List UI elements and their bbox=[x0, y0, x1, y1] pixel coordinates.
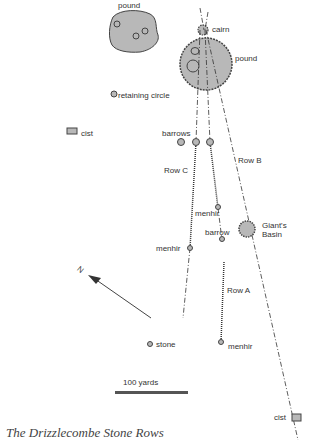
label-giants-basin-1: Giant's bbox=[262, 222, 287, 230]
label-pound-nw: pound bbox=[118, 2, 140, 10]
cist-w bbox=[67, 128, 77, 134]
menhir-c bbox=[188, 246, 193, 251]
label-cist-se: cist bbox=[274, 414, 286, 422]
label-giants-basin-2: Basin bbox=[262, 231, 282, 239]
barrows bbox=[178, 139, 214, 146]
label-scale: 100 yards bbox=[123, 379, 158, 387]
label-row-a: Row A bbox=[227, 287, 250, 295]
label-stone: stone bbox=[156, 341, 176, 349]
label-menhir-a: menhir bbox=[228, 343, 252, 351]
label-pound-main: pound bbox=[235, 55, 257, 63]
stone bbox=[148, 342, 153, 347]
label-menhir-b: menhir bbox=[195, 210, 219, 218]
figure-caption: The Drizzlecombe Stone Rows bbox=[6, 425, 164, 441]
cist-se bbox=[292, 414, 301, 421]
pound-nw bbox=[109, 11, 158, 53]
label-row-b: Row B bbox=[238, 157, 262, 165]
label-barrows: barrows bbox=[162, 130, 190, 138]
label-cist-w: cist bbox=[81, 130, 93, 138]
label-retaining-circle: retaining circle bbox=[118, 92, 170, 100]
retaining-circle bbox=[111, 91, 117, 97]
barrow bbox=[220, 237, 225, 242]
north-arrow-icon bbox=[88, 275, 151, 318]
giants-basin bbox=[239, 221, 255, 237]
label-row-c: Row C bbox=[164, 167, 188, 175]
pound-main bbox=[180, 38, 232, 90]
label-barrow: barrow bbox=[205, 229, 229, 237]
label-cairn: cairn bbox=[212, 26, 229, 34]
label-menhir-c: menhir bbox=[156, 245, 180, 253]
scale-bar bbox=[115, 391, 188, 394]
menhir-a bbox=[219, 340, 224, 345]
